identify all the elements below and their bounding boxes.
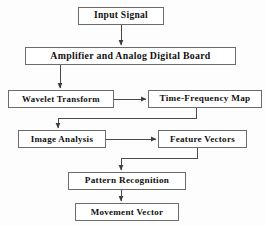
edge-feature-vectors-to-pattern-recognition: [121, 148, 197, 170]
connector-layer: [0, 0, 266, 226]
node-time-frequency-map[interactable]: Time-Frequency Map: [148, 90, 262, 108]
node-label: Pattern Recognition: [85, 176, 170, 185]
node-feature-vectors[interactable]: Feature Vectors: [158, 130, 247, 148]
node-input-signal[interactable]: Input Signal: [78, 7, 164, 25]
node-movement-vector[interactable]: Movement Vector: [75, 203, 179, 221]
node-label: Image Analysis: [31, 134, 93, 143]
flowchart-diagram: Input Signal Amplifier and Analog Digita…: [0, 0, 266, 226]
node-label: Wavelet Transform: [22, 94, 100, 103]
node-label: Amplifier and Analog Digital Board: [50, 51, 210, 61]
edge-time-frequency-map-to-image-analysis: [58, 108, 196, 128]
node-wavelet-transform[interactable]: Wavelet Transform: [8, 90, 114, 108]
node-pattern-recognition[interactable]: Pattern Recognition: [68, 172, 186, 190]
node-amplifier-adc[interactable]: Amplifier and Analog Digital Board: [25, 47, 236, 65]
node-label: Movement Vector: [91, 207, 164, 216]
node-label: Input Signal: [94, 11, 148, 21]
node-label: Time-Frequency Map: [159, 94, 250, 103]
node-image-analysis[interactable]: Image Analysis: [18, 130, 106, 148]
node-label: Feature Vectors: [170, 134, 235, 143]
